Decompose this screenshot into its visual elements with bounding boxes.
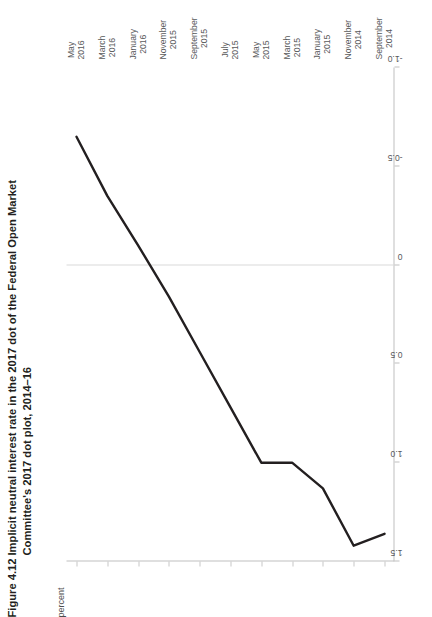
time-tick-label: November2014: [342, 19, 362, 59]
time-tick-label: January2016: [127, 28, 147, 59]
figure-title-block: Figure 4.12 Implicit neutral interest ra…: [4, 0, 38, 617]
time-tick-label: March2016: [96, 35, 116, 59]
value-tick-label: 0: [397, 251, 402, 261]
time-tick-label: September2014: [373, 17, 393, 59]
time-tick: [76, 561, 77, 566]
time-tick-label: September2015: [188, 17, 208, 59]
value-tick: [394, 165, 399, 166]
value-tick: [394, 461, 399, 462]
time-tick: [353, 561, 354, 566]
data-line: [66, 67, 394, 561]
value-tick: [394, 264, 399, 265]
time-tick-label: January2015: [311, 28, 331, 59]
time-tick: [322, 561, 323, 566]
time-tick-label: March2015: [281, 35, 301, 59]
time-tick: [138, 561, 139, 566]
page-title: Implicit neutral interest rate in the 20…: [4, 125, 34, 555]
time-tick-label: November2015: [157, 19, 177, 59]
value-tick: [394, 560, 399, 561]
figure-number: Figure 4.12: [4, 558, 19, 617]
series-line: [76, 136, 384, 545]
unit-label: percent: [55, 587, 65, 617]
value-tick: [394, 362, 399, 363]
time-tick: [168, 561, 169, 566]
figure-page: Figure 4.12 Implicit neutral interest ra…: [0, 0, 432, 617]
value-tick: [394, 66, 399, 67]
time-tick-label: May2015: [250, 40, 270, 59]
time-tick: [107, 561, 108, 566]
time-tick: [384, 561, 385, 566]
chart-plot-area: 1.51.00.50-0.5-1.0 September2014November…: [66, 67, 394, 561]
time-tick-label: July2015: [219, 40, 239, 59]
time-tick: [230, 561, 231, 566]
time-tick-label: May2016: [65, 40, 85, 59]
time-tick: [199, 561, 200, 566]
time-tick: [292, 561, 293, 566]
time-tick: [261, 561, 262, 566]
